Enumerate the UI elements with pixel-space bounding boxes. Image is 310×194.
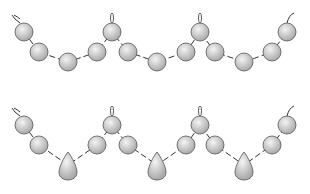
thread-end-knot bbox=[12, 15, 20, 23]
round-bead bbox=[15, 23, 33, 41]
round-bead bbox=[59, 53, 77, 71]
round-bead bbox=[263, 136, 281, 154]
round-bead bbox=[263, 43, 281, 61]
thread-end bbox=[287, 13, 294, 23]
drop-bead bbox=[148, 152, 166, 180]
bead-diagram bbox=[0, 0, 310, 194]
drop-bead-strand bbox=[12, 106, 296, 180]
round-bead bbox=[88, 43, 106, 61]
round-bead bbox=[278, 116, 296, 134]
round-bead bbox=[206, 43, 224, 61]
drop-bead bbox=[235, 152, 253, 180]
round-bead bbox=[30, 43, 48, 61]
round-bead bbox=[191, 23, 209, 41]
round-bead bbox=[148, 53, 166, 71]
round-bead bbox=[177, 136, 195, 154]
thread-loop bbox=[199, 106, 202, 116]
thread-loop bbox=[111, 13, 114, 23]
round-bead bbox=[119, 43, 137, 61]
round-bead bbox=[177, 43, 195, 61]
round-bead bbox=[235, 53, 253, 71]
round-bead-strand bbox=[12, 13, 296, 71]
round-bead bbox=[30, 136, 48, 154]
round-bead bbox=[206, 136, 224, 154]
round-bead bbox=[103, 23, 121, 41]
thread-end-knot bbox=[12, 108, 20, 116]
thread-loop bbox=[111, 106, 114, 116]
drop-bead bbox=[59, 152, 77, 180]
round-bead bbox=[191, 116, 209, 134]
round-bead bbox=[88, 136, 106, 154]
round-bead bbox=[119, 136, 137, 154]
round-bead bbox=[15, 116, 33, 134]
thread-loop bbox=[199, 13, 202, 23]
thread-end bbox=[287, 106, 294, 116]
round-bead bbox=[103, 116, 121, 134]
round-bead bbox=[278, 23, 296, 41]
